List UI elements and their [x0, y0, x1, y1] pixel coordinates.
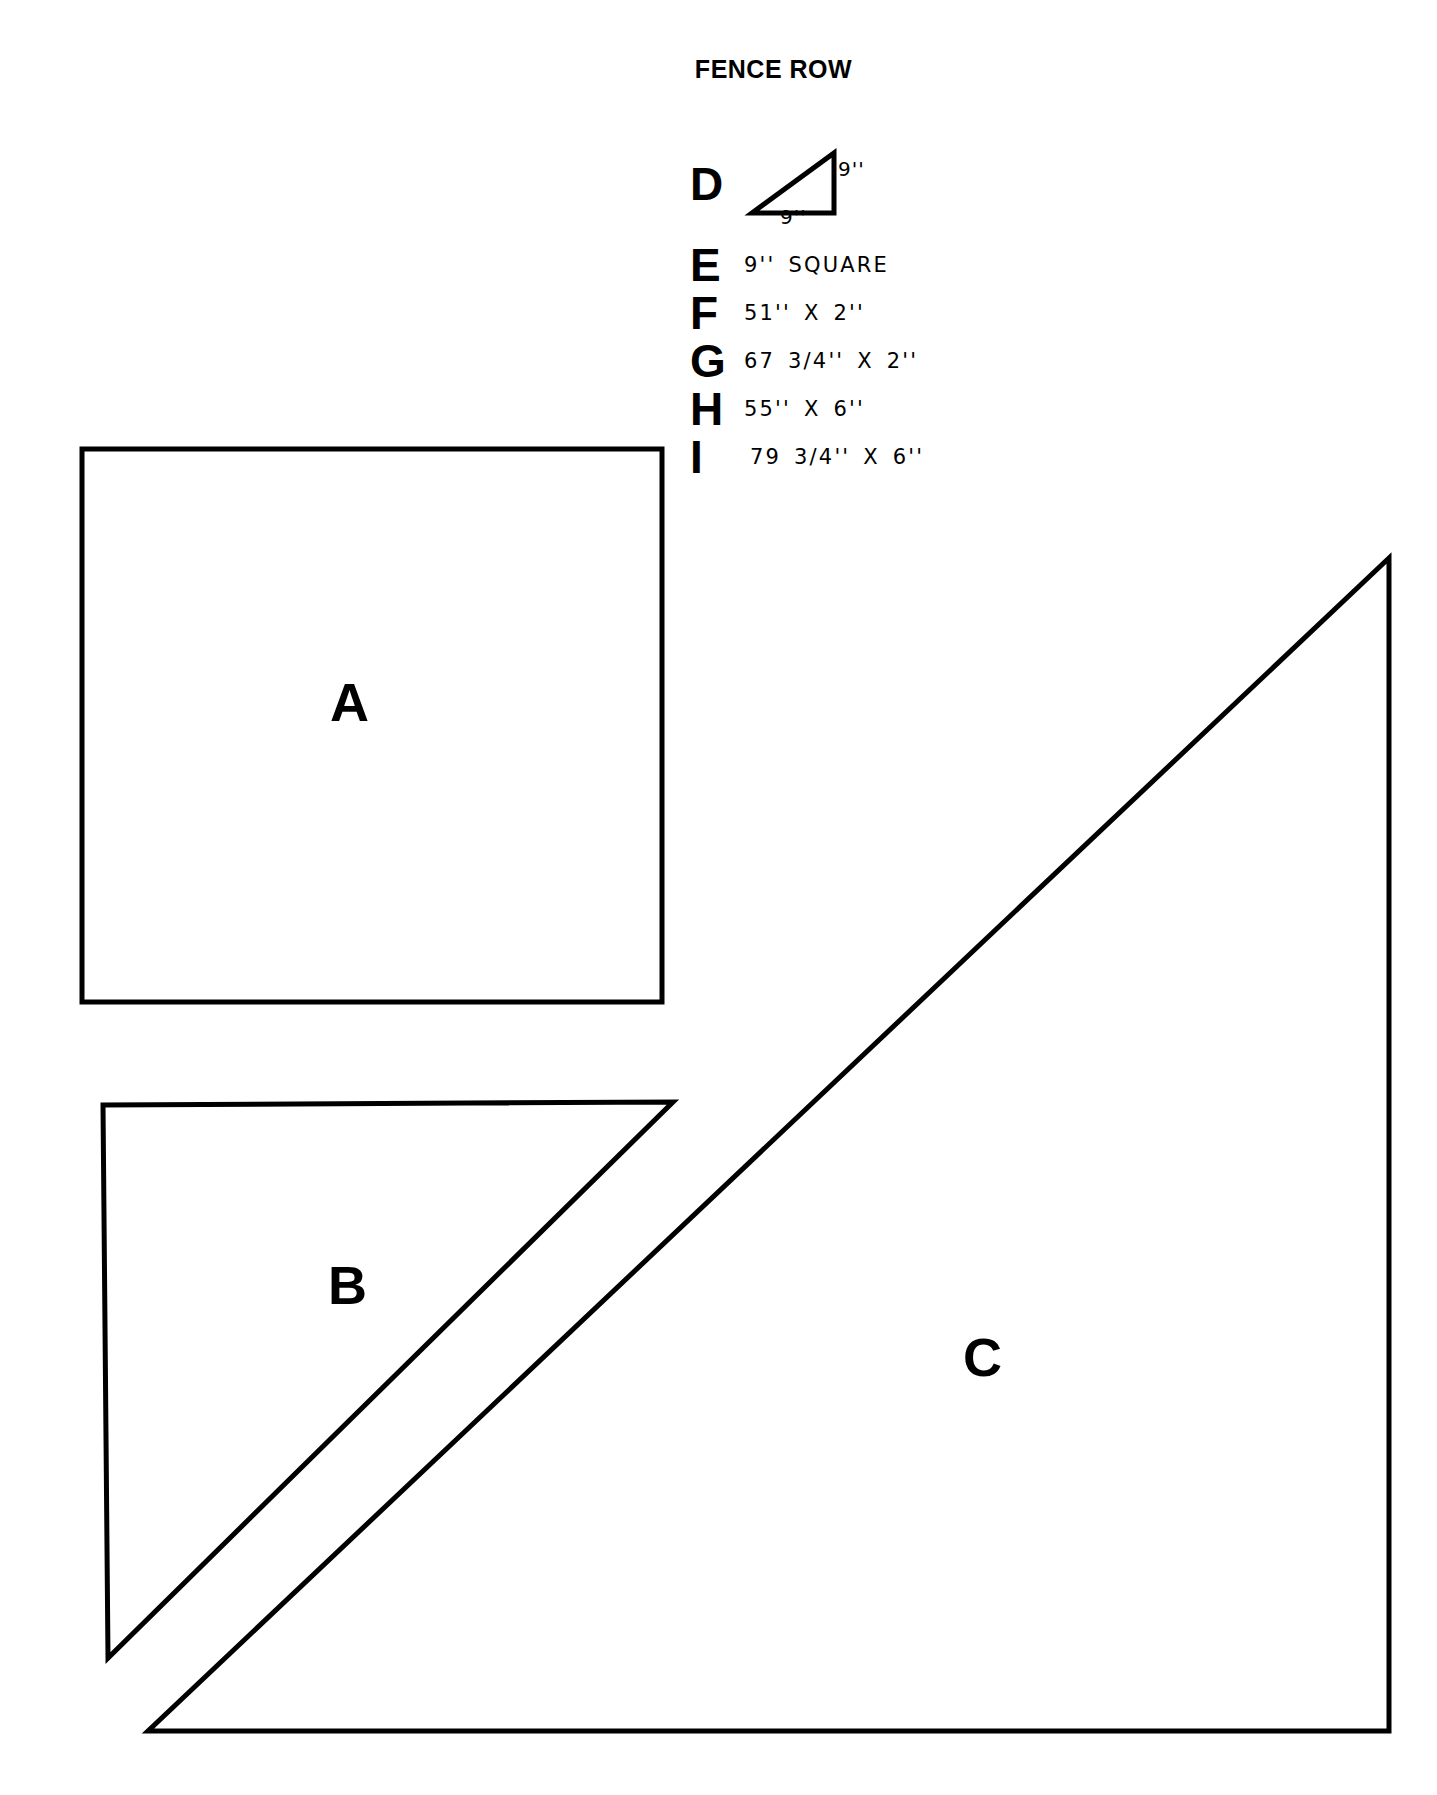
legend-letter-h: H: [690, 386, 738, 432]
piece-legend: D 9'' 9'' E 9'' SQUARE F 51'' X 2'' G 67…: [690, 145, 1120, 481]
legend-dimension-g: 67 3/4'' X 2'': [738, 349, 918, 373]
legend-dimension-h: 55'' X 6'': [738, 397, 865, 421]
legend-row-e: E 9'' SQUARE: [690, 241, 1120, 289]
triangle-c-outline: [148, 558, 1389, 1731]
shape-label-a: A: [330, 675, 369, 729]
legend-dimension-f: 51'' X 2'': [738, 301, 865, 325]
legend-row-d: D 9'' 9'': [690, 145, 1120, 241]
legend-dimension-i: 79 3/4'' X 6'': [738, 445, 924, 469]
square-a-outline: [82, 449, 662, 1002]
legend-row-h: H 55'' X 6'': [690, 385, 1120, 433]
triangle-d-vertical-dimension: 9'': [838, 157, 865, 181]
triangle-b-outline: [103, 1102, 673, 1658]
triangle-d-figure: 9'' 9'': [742, 145, 932, 241]
legend-letter-f: F: [690, 290, 738, 336]
legend-letter-i: I: [690, 434, 738, 480]
legend-row-g: G 67 3/4'' X 2'': [690, 337, 1120, 385]
legend-letter-g: G: [690, 338, 738, 384]
legend-dimension-e: 9'' SQUARE: [738, 253, 889, 277]
pattern-page: FENCE ROW A B C D 9'' 9'' E 9'' SQUARE: [0, 0, 1437, 1795]
legend-letter-d: D: [690, 161, 738, 207]
shape-label-b: B: [328, 1258, 367, 1312]
shape-label-c: C: [963, 1330, 1002, 1384]
legend-letter-e: E: [690, 242, 738, 288]
triangle-d-horizontal-dimension: 9'': [780, 205, 807, 229]
legend-row-f: F 51'' X 2'': [690, 289, 1120, 337]
legend-row-i: I 79 3/4'' X 6'': [690, 433, 1120, 481]
